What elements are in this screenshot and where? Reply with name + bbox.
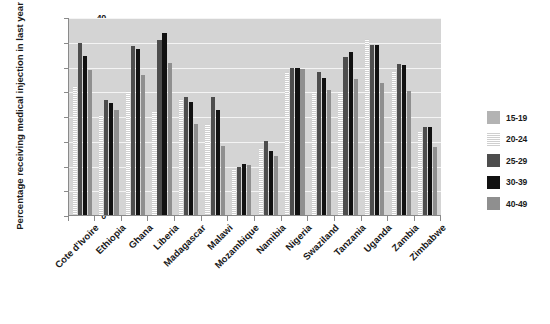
x-tick-mark bbox=[334, 216, 361, 221]
x-tick-mark bbox=[95, 216, 122, 221]
bar bbox=[327, 90, 331, 215]
x-tick-mark bbox=[68, 216, 95, 221]
bar-chart-figure: Percentage receiving medical injection i… bbox=[0, 0, 550, 324]
x-tick-mark bbox=[228, 216, 255, 221]
bar bbox=[194, 124, 198, 215]
bar bbox=[274, 156, 278, 215]
bar bbox=[433, 147, 437, 215]
x-tick-mark bbox=[308, 216, 335, 221]
bar bbox=[211, 97, 215, 215]
bar bbox=[380, 83, 384, 215]
bar bbox=[407, 91, 411, 215]
bar-group bbox=[415, 18, 442, 215]
bar bbox=[423, 127, 427, 215]
bar-group bbox=[149, 18, 176, 215]
bar-group bbox=[388, 18, 415, 215]
bar bbox=[375, 45, 379, 215]
x-tick-label: Ghana bbox=[126, 222, 155, 251]
x-tick-mark bbox=[361, 216, 388, 221]
bar bbox=[162, 33, 166, 215]
bar-group bbox=[69, 18, 96, 215]
x-tick-mark bbox=[148, 216, 175, 221]
bar bbox=[349, 52, 353, 215]
chart-legend: 15-1920-2425-2930-3940-49 bbox=[487, 107, 547, 215]
bar bbox=[285, 72, 289, 215]
legend-label: 30-39 bbox=[506, 177, 527, 187]
bar bbox=[152, 111, 156, 215]
bar bbox=[216, 110, 220, 215]
bar bbox=[392, 71, 396, 215]
bar bbox=[73, 86, 77, 215]
bar-group bbox=[282, 18, 309, 215]
bar bbox=[365, 39, 369, 215]
x-tick-label: Cote d'Ivoire bbox=[53, 222, 101, 270]
legend-item: 20-24 bbox=[487, 129, 547, 151]
x-tick-mark bbox=[201, 216, 228, 221]
legend-item: 40-49 bbox=[487, 193, 547, 215]
bar bbox=[205, 124, 209, 215]
legend-item: 15-19 bbox=[487, 107, 547, 129]
legend-swatch bbox=[487, 154, 500, 167]
bar bbox=[370, 45, 374, 215]
bar bbox=[317, 72, 321, 215]
x-axis-tickmarks bbox=[68, 216, 441, 221]
legend-label: 25-29 bbox=[506, 156, 527, 166]
bar-group bbox=[122, 18, 149, 215]
bar bbox=[131, 46, 135, 215]
bar bbox=[88, 70, 92, 215]
bar bbox=[428, 127, 432, 215]
bar bbox=[179, 99, 183, 215]
legend-item: 25-29 bbox=[487, 150, 547, 172]
bar-group bbox=[202, 18, 229, 215]
bar bbox=[247, 165, 251, 215]
bar bbox=[126, 91, 130, 215]
bar-group bbox=[255, 18, 282, 215]
legend-label: 20-24 bbox=[506, 134, 527, 144]
legend-swatch bbox=[487, 133, 500, 146]
bar bbox=[189, 102, 193, 215]
x-tick-mark bbox=[254, 216, 281, 221]
bar bbox=[312, 91, 316, 215]
bar bbox=[168, 63, 172, 215]
bar bbox=[83, 56, 87, 215]
figure-caption bbox=[4, 316, 334, 324]
bar bbox=[343, 57, 347, 215]
bar bbox=[104, 100, 108, 215]
bar bbox=[136, 49, 140, 215]
bar bbox=[237, 167, 241, 215]
bar bbox=[242, 164, 246, 215]
bar bbox=[290, 68, 294, 216]
bar bbox=[264, 141, 268, 215]
x-tick-label: Uganda bbox=[362, 222, 394, 254]
legend-item: 30-39 bbox=[487, 172, 547, 194]
bar-group bbox=[175, 18, 202, 215]
bar bbox=[338, 91, 342, 215]
x-tick-mark bbox=[175, 216, 202, 221]
bar bbox=[184, 97, 188, 215]
x-axis-labels: Cote d'IvoireEthiopiaGhanaLiberiaMadagas… bbox=[68, 222, 441, 317]
bar-group bbox=[335, 18, 362, 215]
bar bbox=[354, 79, 358, 215]
bar bbox=[259, 148, 263, 215]
legend-swatch bbox=[487, 111, 500, 124]
bar bbox=[114, 110, 118, 215]
bar bbox=[141, 75, 145, 215]
legend-swatch bbox=[487, 197, 500, 210]
legend-swatch bbox=[487, 176, 500, 189]
bar bbox=[402, 65, 406, 215]
bar-group bbox=[308, 18, 335, 215]
x-tick-mark bbox=[414, 216, 441, 221]
bar bbox=[300, 69, 304, 215]
bar bbox=[295, 68, 299, 216]
bar-group bbox=[228, 18, 255, 215]
bar bbox=[232, 169, 236, 215]
bar bbox=[322, 78, 326, 215]
bar bbox=[397, 64, 401, 215]
bar-group bbox=[96, 18, 123, 215]
y-axis-title: Percentage receiving medical injection i… bbox=[0, 8, 40, 223]
bar bbox=[157, 40, 161, 215]
bar bbox=[99, 115, 103, 215]
bar bbox=[78, 43, 82, 215]
bar bbox=[221, 146, 225, 215]
bar bbox=[109, 103, 113, 215]
